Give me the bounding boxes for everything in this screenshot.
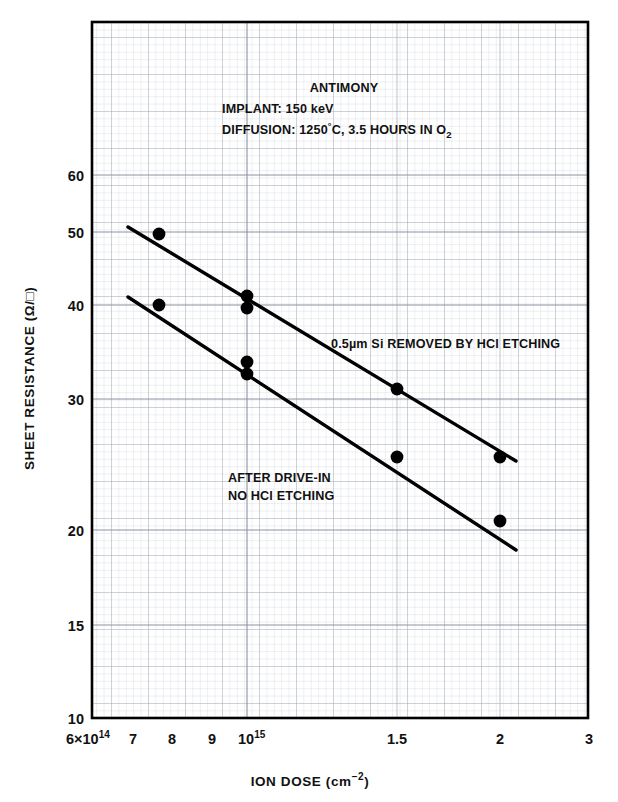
data-point [391, 383, 404, 396]
x-tick-label: 7 [129, 731, 137, 747]
data-point [241, 290, 254, 303]
x-tick-exponent: 15 [254, 729, 266, 740]
header-line-implant: IMPLANT: 150 keV [222, 102, 334, 116]
y-tick-label: 20 [68, 523, 84, 539]
x-tick-label: 8 [168, 731, 176, 747]
y-tick-label: 15 [68, 618, 84, 634]
annotation-after-drive-in-line1: AFTER DRIVE-IN [228, 471, 331, 485]
x-axis-title-a: ION DOSE (cm [251, 774, 352, 789]
x-axis-title-exponent: −2 [352, 771, 365, 782]
header-line-antimony: ANTIMONY [310, 81, 379, 95]
y-tick-label: 30 [68, 392, 84, 408]
data-point [241, 368, 254, 381]
data-point [153, 228, 166, 241]
data-point [494, 515, 507, 528]
diffusion-text-a: DIFFUSION: 1250 [222, 123, 328, 137]
x-axis-title-b: ) [364, 774, 369, 789]
x-tick-label: 6×10 [66, 731, 99, 747]
x-axis-title: ION DOSE (cm−2) [251, 771, 370, 789]
y-tick-label: 50 [68, 225, 84, 241]
y-tick-label: 10 [68, 711, 84, 727]
y-axis-title: SHEET RESISTANCE (Ω/□) [22, 287, 37, 470]
y-tick-label: 40 [68, 298, 84, 314]
o2-subscript: 2 [446, 129, 451, 140]
x-tick-label: 10 [238, 731, 254, 747]
figure-container: ANTIMONY IMPLANT: 150 keV DIFFUSION: 125… [0, 0, 618, 802]
diffusion-text-b: C, 3.5 HOURS IN O [332, 123, 447, 137]
x-tick-label: 3 [585, 731, 593, 747]
data-point [153, 299, 166, 312]
x-tick-exponent: 14 [99, 729, 111, 740]
data-point [241, 302, 254, 315]
x-tick-label: 1.5 [387, 731, 407, 747]
data-point [494, 451, 507, 464]
annotation-hcl-etched: 0.5µm Si REMOVED BY HCl ETCHING [331, 337, 560, 351]
x-tick-label: 9 [208, 731, 216, 747]
annotation-after-drive-in-line2: NO HCl ETCHING [228, 489, 334, 503]
x-tick-label: 2 [496, 731, 504, 747]
sheet-resistance-vs-ion-dose-chart: ANTIMONY IMPLANT: 150 keV DIFFUSION: 125… [0, 0, 618, 802]
y-tick-label: 60 [68, 168, 84, 184]
data-point [241, 356, 254, 369]
data-point [391, 451, 404, 464]
